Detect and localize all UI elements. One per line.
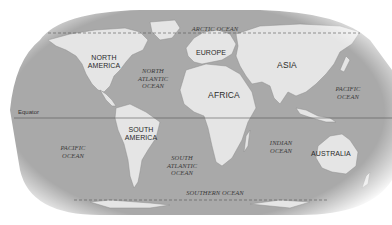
label-north-atlantic-ocean: NORTHATLANTICOCEAN (138, 67, 168, 90)
label-pacific-ocean-west: PACIFICOCEAN (61, 144, 86, 159)
label-europe: EUROPE (196, 49, 226, 57)
label-south-atlantic-ocean: SOUTHATLANTICOCEAN (167, 154, 197, 177)
label-pacific-ocean-east: PACIFICOCEAN (336, 85, 361, 100)
label-south-america: SOUTHAMERICA (125, 126, 158, 141)
label-arctic-ocean: ARCTIC OCEAN (192, 25, 239, 33)
label-asia: ASIA (277, 62, 297, 70)
label-australia: AUSTRALIA (311, 150, 351, 158)
equator-label: Equator (18, 109, 39, 115)
label-indian-ocean: INDIANOCEAN (270, 139, 292, 154)
world-map: Equator NORTHAMERICA SOUTHAMERICA EUROPE… (0, 0, 392, 225)
label-africa: AFRICA (208, 92, 240, 100)
label-southern-ocean: SOUTHERN OCEAN (186, 189, 244, 197)
label-north-america: NORTHAMERICA (88, 54, 121, 69)
